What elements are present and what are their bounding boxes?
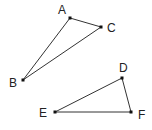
vertex-e-point [54, 111, 57, 114]
vertex-d-point [121, 77, 124, 80]
vertex-c-point [100, 26, 103, 29]
vertex-b-point [22, 79, 25, 82]
vertex-a-label: A [58, 3, 66, 17]
vertex-c-label: C [107, 21, 116, 35]
vertex-d-label: D [119, 61, 128, 75]
vertex-f-point [130, 111, 133, 114]
triangle-def: D E F [39, 61, 145, 122]
triangle-abc: A B C [9, 3, 116, 90]
vertex-a-point [69, 17, 72, 20]
triangle-diagram: A B C D E F [0, 0, 152, 130]
vertex-f-label: F [138, 108, 145, 122]
triangle-abc-edges [23, 18, 101, 80]
vertex-b-label: B [9, 76, 17, 90]
vertex-e-label: E [39, 106, 47, 120]
triangle-def-edges [55, 78, 131, 112]
